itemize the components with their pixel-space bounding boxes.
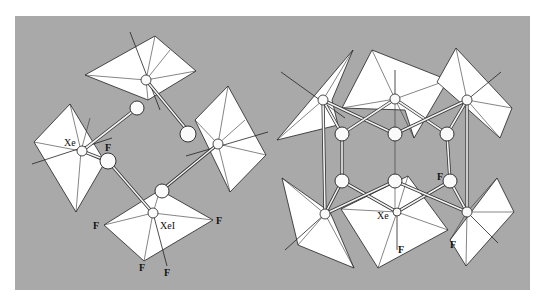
bridging-bonds xyxy=(323,99,467,214)
f-atom xyxy=(155,184,169,198)
f-atom xyxy=(130,101,144,115)
label-xe1: XeI xyxy=(160,220,175,231)
xe-atom xyxy=(393,208,401,216)
xe-atom xyxy=(77,146,87,156)
polyhedron-top-right xyxy=(437,48,512,138)
polyhedron-bottom-right xyxy=(450,178,514,266)
label-f-left: F xyxy=(93,220,99,231)
label-f-corner: F xyxy=(450,239,456,250)
xe-atom xyxy=(148,208,158,218)
f-atom xyxy=(335,174,349,188)
label-f-bottom: F xyxy=(139,262,145,273)
label-xe: Xe xyxy=(64,137,76,148)
label-f-right: F xyxy=(216,215,222,226)
polyhedron-top-left xyxy=(277,50,353,140)
label-f-bridge: F xyxy=(437,171,443,182)
xe-atom xyxy=(390,94,400,104)
xe-atom xyxy=(462,207,472,217)
bridging-bonds xyxy=(82,80,218,213)
label-f-axial: F xyxy=(164,267,170,278)
f-atom xyxy=(388,127,402,141)
right-structure: Xe F F F xyxy=(277,48,514,268)
polyhedron-bottom-left xyxy=(282,178,354,268)
xe-atom xyxy=(462,95,472,105)
xe-atom xyxy=(213,139,223,149)
polyhedron-bottom xyxy=(104,190,213,266)
f-atom xyxy=(180,126,196,142)
label-f-axial: F xyxy=(398,244,404,255)
f-atom xyxy=(440,127,454,141)
crystal-structure-diagram: Xe F XeI F F F F xyxy=(0,0,547,306)
f-atom xyxy=(100,153,116,169)
f-atom xyxy=(388,174,402,188)
xe-atom xyxy=(318,95,328,105)
xe-atom xyxy=(141,75,151,85)
label-xe: Xe xyxy=(377,210,389,221)
xe-atom xyxy=(320,209,330,219)
polyhedron-top xyxy=(85,32,196,110)
left-structure: Xe F XeI F F F F xyxy=(32,32,268,278)
label-f-bridge: F xyxy=(105,142,111,153)
polyhedron-right xyxy=(186,86,268,192)
f-atom xyxy=(443,174,457,188)
f-atom xyxy=(335,127,349,141)
